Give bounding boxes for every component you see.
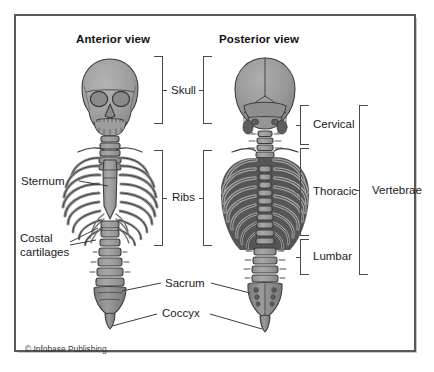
leader-coccyx-right (210, 314, 262, 329)
bracket-tick (296, 125, 301, 126)
bracket-tick (162, 198, 167, 199)
posterior-skeleton (221, 58, 309, 332)
label-costal-cartilages-line2: cartilages (20, 246, 69, 260)
bracket-vertebrae (359, 105, 368, 275)
posterior-view-title: Posterior view (219, 33, 299, 45)
leader-sacrum-left (122, 283, 161, 291)
label-sternum: Sternum (21, 175, 64, 189)
skeleton-illustration (0, 0, 434, 372)
anterior-sacrum-coccyx (94, 287, 126, 330)
bracket-lumbar (300, 239, 309, 275)
bracket-tick (199, 90, 204, 91)
posterior-lumbar-spine (244, 248, 286, 282)
sternum-bone (103, 160, 117, 219)
label-thoracic: Thoracic (313, 185, 357, 199)
label-sacrum: Sacrum (165, 277, 205, 291)
posterior-rib-cage (221, 157, 309, 250)
bracket-ribs-posterior (203, 150, 212, 246)
posterior-skull (235, 58, 295, 134)
publisher-credit: © Infobase Publishing (25, 344, 107, 354)
anterior-view-title: Anterior view (76, 33, 150, 45)
leader-sacrum-right (211, 283, 250, 293)
bracket-tick (162, 90, 167, 91)
label-costal-cartilages-line1: Costal (20, 232, 53, 246)
label-lumbar: Lumbar (313, 250, 352, 264)
bracket-cervical (300, 105, 309, 145)
bracket-tick (199, 198, 204, 199)
anatomy-figure: Anterior view Posterior view Skull Ribs … (0, 0, 434, 372)
label-coccyx: Coccyx (162, 307, 200, 321)
bracket-skull-anterior (154, 56, 163, 124)
label-vertebrae: Vertebrae (372, 184, 422, 198)
bracket-tick (355, 190, 360, 191)
label-cervical: Cervical (313, 118, 355, 132)
anterior-skull (82, 59, 138, 136)
leader-coccyx-left (112, 314, 157, 326)
bracket-thoracic (300, 148, 309, 236)
label-ribs: Ribs (172, 191, 195, 205)
label-skull: Skull (171, 84, 196, 98)
anterior-skeleton (63, 59, 157, 329)
bracket-tick (296, 192, 301, 193)
bracket-tick (296, 257, 301, 258)
bracket-skull-posterior (203, 56, 212, 124)
leader-costal-2 (70, 240, 96, 245)
bracket-ribs-anterior (154, 150, 163, 246)
posterior-sacrum-coccyx (248, 283, 282, 333)
